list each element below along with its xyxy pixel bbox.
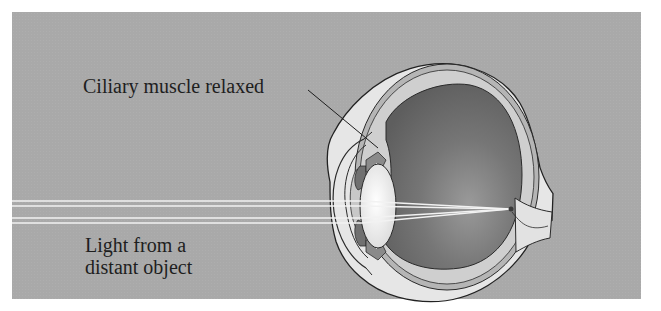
light-label-line-2: distant object xyxy=(85,256,192,278)
light-source-label: Light from a distant object xyxy=(85,234,192,278)
light-label-line-1: Light from a xyxy=(85,234,192,256)
ciliary-muscle-label: Ciliary muscle relaxed xyxy=(83,75,264,97)
vitreous-humor xyxy=(382,84,522,269)
focal-point xyxy=(509,207,514,212)
